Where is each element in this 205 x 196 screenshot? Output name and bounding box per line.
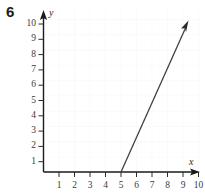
y-tick-label-10: 10 [27,19,37,29]
y-tick-label-9: 9 [31,35,36,45]
y-tick-label-4: 4 [31,111,36,121]
x-axis-ticks [59,172,199,177]
x-tick-label-7: 7 [150,181,155,191]
x-tick-label-4: 4 [103,181,108,191]
y-tick-label-8: 8 [31,50,36,60]
x-tick-label-8: 8 [165,181,170,191]
y-tick-label-2: 2 [31,142,36,152]
grid-background [43,10,203,172]
x-tick-label-9: 9 [181,181,186,191]
y-axis-label: y [49,8,53,18]
y-tick-label-3: 3 [31,126,36,136]
x-tick-label-2: 2 [72,181,77,191]
y-axis-ticks [39,24,44,162]
problem-number: 6 [6,4,14,19]
x-tick-label-6: 6 [134,181,139,191]
y-tick-label-5: 5 [31,96,36,106]
graph-figure: 6 [0,0,205,196]
x-axis-label: x [189,157,193,167]
x-tick-label-5: 5 [119,181,124,191]
y-tick-label-6: 6 [31,80,36,90]
x-tick-label-3: 3 [88,181,93,191]
y-tick-label-1: 1 [31,157,36,167]
y-tick-label-7: 7 [31,65,36,75]
x-tick-label-1: 1 [57,181,62,191]
x-tick-label-10: 10 [194,181,204,191]
